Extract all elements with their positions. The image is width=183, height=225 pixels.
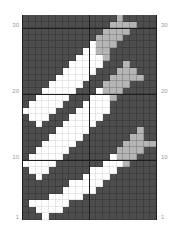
chart-cell: [137, 187, 144, 194]
chart-cell: [49, 213, 56, 220]
chart-cell: [36, 174, 43, 181]
chart-cell: [29, 187, 36, 194]
chart-cell: [137, 167, 144, 174]
row-label-20-left: 20: [2, 88, 19, 94]
chart-cell: [22, 134, 29, 141]
chart-cell: [130, 101, 137, 108]
chart-cell: [137, 61, 144, 68]
chart-cell: [103, 141, 110, 148]
chart-cell: [123, 134, 130, 141]
chart-cell: [137, 55, 144, 62]
chart-cell: [36, 55, 43, 62]
chart-cell: [123, 141, 130, 148]
chart-cell: [110, 48, 117, 55]
chart-cell: [90, 114, 97, 121]
chart-cell: [29, 28, 36, 35]
chart-cell: [103, 94, 110, 101]
chart-cell: [22, 75, 29, 82]
chart-cell: [76, 28, 83, 35]
chart-cell: [90, 15, 97, 22]
chart-cell: [123, 180, 130, 187]
chart-cell: [29, 108, 36, 115]
chart-cell: [117, 94, 124, 101]
chart-cell: [90, 75, 97, 82]
chart-cell: [130, 187, 137, 194]
chart-cell: [103, 160, 110, 167]
chart-cell: [130, 48, 137, 55]
chart-cell: [36, 35, 43, 42]
chart-cell: [63, 127, 70, 134]
chart-cell: [130, 68, 137, 75]
chart-cell: [96, 180, 103, 187]
chart-cell: [144, 28, 151, 35]
chart-cell: [103, 68, 110, 75]
chart-cell: [56, 55, 63, 62]
chart-cell: [49, 41, 56, 48]
chart-cell: [36, 187, 43, 194]
chart-cell: [103, 101, 110, 108]
chart-cell: [56, 147, 63, 154]
grid-major-line: [156, 15, 157, 220]
chart-cell: [56, 35, 63, 42]
chart-cell: [69, 147, 76, 154]
chart-cell: [144, 194, 151, 201]
chart-cell: [63, 134, 70, 141]
chart-cell: [29, 213, 36, 220]
chart-cell: [103, 174, 110, 181]
chart-cell: [49, 81, 56, 88]
chart-cell: [110, 61, 117, 68]
chart-cell: [76, 41, 83, 48]
chart-cell: [49, 174, 56, 181]
chart-cell: [123, 94, 130, 101]
chart-cell: [110, 101, 117, 108]
chart-cell: [36, 101, 43, 108]
chart-cell: [96, 207, 103, 214]
chart-cell: [90, 207, 97, 214]
chart-cell: [36, 147, 43, 154]
chart-cell: [117, 160, 124, 167]
chart-cell: [137, 194, 144, 201]
chart-cell: [110, 194, 117, 201]
chart-cell: [29, 200, 36, 207]
chart-cell: [69, 167, 76, 174]
chart-cell: [137, 41, 144, 48]
grid-major-line: [22, 160, 157, 161]
chart-cell: [49, 194, 56, 201]
chart-cell: [96, 108, 103, 115]
chart-cell: [137, 213, 144, 220]
chart-cell: [63, 41, 70, 48]
chart-cell: [69, 200, 76, 207]
chart-cell: [69, 213, 76, 220]
chart-cell: [56, 75, 63, 82]
chart-cell: [76, 134, 83, 141]
chart-cell: [69, 114, 76, 121]
chart-cell: [36, 81, 43, 88]
chart-cell: [144, 180, 151, 187]
chart-cell: [36, 114, 43, 121]
chart-cell: [69, 160, 76, 167]
chart-cell: [29, 35, 36, 42]
chart-cell: [110, 94, 117, 101]
chart-cell: [56, 81, 63, 88]
chart-cell: [36, 134, 43, 141]
chart-cell: [63, 114, 70, 121]
chart-cell: [49, 134, 56, 141]
chart-cell: [22, 28, 29, 35]
chart-cell: [117, 147, 124, 154]
chart-cell: [76, 35, 83, 42]
chart-cell: [42, 141, 49, 148]
chart-cell: [29, 160, 36, 167]
chart-cell: [130, 55, 137, 62]
chart-cell: [29, 41, 36, 48]
chart-cell: [76, 141, 83, 148]
chart-cell: [69, 101, 76, 108]
chart-cell: [90, 28, 97, 35]
row-label-30-left: 30: [2, 22, 19, 28]
chart-cell: [49, 108, 56, 115]
chart-cell: [69, 81, 76, 88]
chart-cell: [63, 48, 70, 55]
chart-cell: [56, 160, 63, 167]
chart-cell: [63, 147, 70, 154]
chart-cell: [56, 187, 63, 194]
chart-cell: [56, 101, 63, 108]
